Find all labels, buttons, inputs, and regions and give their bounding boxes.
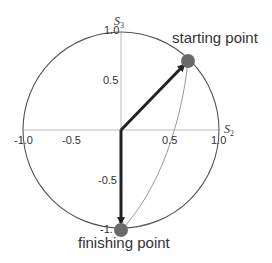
tick-x-minus-0-5: -0.5 bbox=[62, 134, 81, 146]
s3-axis-label: S3 bbox=[114, 14, 124, 30]
start-vector-arrow bbox=[121, 65, 184, 130]
starting-point-marker bbox=[181, 54, 195, 68]
tick-y-minus-0-5: -0.5 bbox=[98, 174, 117, 186]
tick-y-0-5: 0.5 bbox=[103, 74, 118, 86]
poincare-diagram: -1.0 -0.5 0.5 1.0 1.0 0.5 -0.5 -1. S3 S2… bbox=[0, 0, 272, 263]
starting-point-label: starting point bbox=[172, 29, 259, 46]
finishing-point-label: finishing point bbox=[78, 234, 171, 251]
tick-x-0-5: 0.5 bbox=[162, 134, 177, 146]
tick-x-minus-1: -1.0 bbox=[14, 134, 33, 146]
trajectory-arc bbox=[121, 61, 188, 230]
s2-axis-label: S2 bbox=[224, 122, 234, 138]
